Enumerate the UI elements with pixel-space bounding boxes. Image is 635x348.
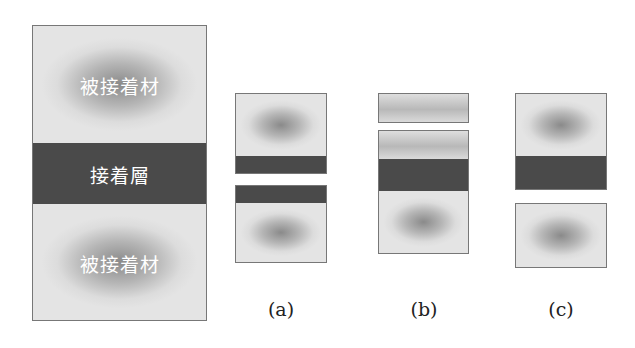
adhesive-layer — [516, 156, 606, 189]
caption-c: (c) — [531, 298, 591, 320]
adhesive-layer — [379, 159, 468, 191]
specimen-main: 被接着材 接着層 被接着材 — [32, 25, 207, 321]
adhesive-label: 接着層 — [33, 161, 206, 188]
adherend-fragment — [379, 94, 468, 122]
adherend — [516, 94, 606, 156]
adherend-bottom-label: 被接着材 — [33, 250, 206, 277]
case-b-top — [378, 93, 469, 123]
caption-b: (b) — [394, 298, 454, 320]
adherend — [236, 203, 326, 262]
adhesive-layer — [236, 156, 326, 173]
adherend — [236, 94, 326, 156]
adhesive-layer: 接着層 — [33, 143, 206, 204]
adherend-top-label: 被接着材 — [33, 72, 206, 99]
adherend — [516, 204, 606, 267]
case-c-bottom — [515, 203, 607, 268]
adherend-top: 被接着材 — [33, 26, 206, 143]
case-c-top — [515, 93, 607, 190]
adherend — [379, 191, 468, 253]
case-a-top — [235, 93, 327, 174]
adhesive-layer — [236, 186, 326, 203]
case-b-bottom — [378, 130, 469, 254]
adherend-fragment — [379, 131, 468, 159]
case-a-bottom — [235, 185, 327, 263]
adherend-bottom: 被接着材 — [33, 204, 206, 320]
caption-a: (a) — [251, 298, 311, 320]
